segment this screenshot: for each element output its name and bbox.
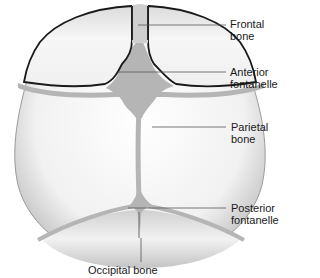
label-frontal-bone: Frontal bone <box>230 18 264 42</box>
label-anterior-fontanelle: Anterior fontanelle <box>230 66 278 90</box>
label-occipital-bone: Occipital bone <box>88 264 158 276</box>
label-parietal-bone: Parietal bone <box>231 121 268 145</box>
label-posterior-fontanelle: Posterior fontanelle <box>231 202 279 226</box>
frontal-bone-left <box>24 6 132 86</box>
